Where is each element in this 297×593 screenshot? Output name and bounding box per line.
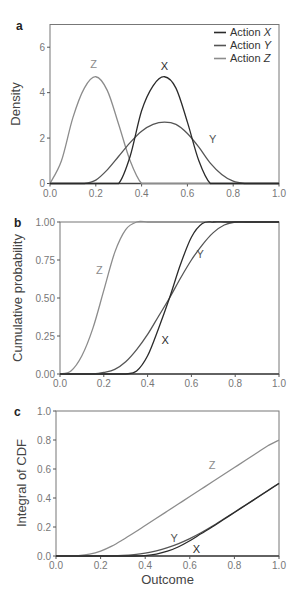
y-tick-label: 2 [39, 133, 45, 144]
y-tick-label: 0.8 [37, 435, 51, 446]
x-tick-label: 0.4 [138, 560, 152, 571]
y-tick-label: 0.2 [37, 522, 51, 533]
x-tick-label: 0.6 [180, 188, 194, 199]
curve-label-z: Z [96, 264, 103, 276]
x-tick-label: 0.8 [226, 188, 240, 199]
legend-entry-x: Action X [230, 26, 272, 38]
legend: Action XAction YAction Z [214, 26, 272, 64]
y-tick-label: 0.00 [36, 369, 56, 380]
x-tick-label: 0.0 [43, 188, 57, 199]
panel-label: b [14, 216, 21, 230]
series-action-x [50, 77, 279, 184]
curve-label-z: Z [209, 459, 216, 471]
x-tick-label: 1.0 [272, 188, 286, 199]
series-action-x [60, 222, 279, 374]
y-tick-label: 0.6 [37, 464, 51, 475]
panel-a: 0.00.20.40.60.81.00246aDensityZXYAction … [8, 19, 286, 199]
curve-label-x: X [161, 60, 169, 72]
curve-label-y: Y [196, 248, 204, 260]
curve-label-y: Y [209, 133, 217, 145]
x-tick-label: 0.0 [49, 560, 63, 571]
x-tick-label: 0.4 [141, 378, 155, 389]
y-tick-label: 1.0 [37, 406, 51, 417]
y-axis-label: Integral of CDF [14, 439, 29, 527]
legend-entry-z: Action Z [230, 52, 272, 64]
y-tick-label: 0.0 [37, 551, 51, 562]
x-tick-label: 0.8 [227, 560, 241, 571]
y-tick-label: 0.75 [36, 255, 56, 266]
x-tick-label: 0.2 [94, 560, 108, 571]
curve-label-x: X [161, 334, 169, 346]
y-tick-label: 6 [39, 42, 45, 53]
curve-label-y: Y [171, 532, 179, 544]
x-tick-label: 0.4 [135, 188, 149, 199]
series-action-x [56, 484, 279, 557]
y-tick-label: 0 [39, 178, 45, 189]
curve-label-x: X [193, 543, 201, 555]
series-action-z [50, 77, 279, 184]
panel-label: c [14, 405, 21, 419]
series-action-z [56, 440, 279, 556]
x-tick-label: 0.8 [228, 378, 242, 389]
x-tick-label: 0.6 [183, 560, 197, 571]
x-tick-label: 1.0 [272, 560, 286, 571]
panel-c: 0.00.20.40.60.81.00.00.20.40.60.81.0cInt… [14, 405, 286, 587]
y-tick-label: 4 [39, 87, 45, 98]
y-axis-label: Density [8, 82, 23, 126]
x-tick-label: 0.2 [97, 378, 111, 389]
y-tick-label: 0.25 [36, 331, 56, 342]
panel-b: 0.00.20.40.60.81.00.000.250.500.751.00bC… [10, 216, 286, 389]
curve-label-z: Z [90, 58, 97, 70]
x-tick-label: 0.6 [184, 378, 198, 389]
y-tick-label: 0.50 [36, 293, 56, 304]
x-tick-label: 0.0 [53, 378, 67, 389]
figure: 0.00.20.40.60.81.00246aDensityZXYAction … [0, 0, 297, 593]
x-axis-label: Outcome [141, 572, 194, 587]
series-action-y [50, 122, 279, 183]
y-tick-label: 1.00 [36, 217, 56, 228]
series-action-y [56, 483, 279, 556]
x-tick-label: 0.2 [89, 188, 103, 199]
panel-label: a [16, 19, 23, 33]
y-tick-label: 0.4 [37, 493, 51, 504]
plot-frame [56, 411, 279, 556]
y-axis-label: Cumulative probability [10, 234, 25, 362]
legend-entry-y: Action Y [230, 39, 272, 51]
x-tick-label: 1.0 [272, 378, 286, 389]
